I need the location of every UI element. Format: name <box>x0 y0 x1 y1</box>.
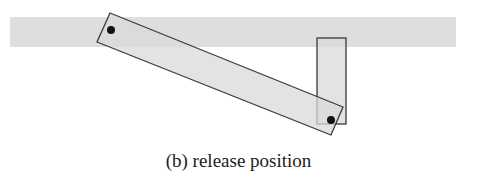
joint-dot <box>107 26 115 34</box>
ground-band <box>10 17 456 47</box>
joint-dot <box>327 116 335 124</box>
figure-caption: (b) release position <box>0 150 477 172</box>
diagram: (b) release position <box>0 0 477 180</box>
